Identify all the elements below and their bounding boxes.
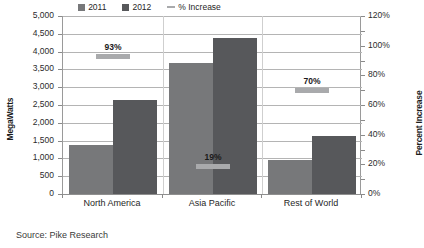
- y-axis-left-tickmark: [58, 141, 62, 142]
- y-axis-left-tickmark: [58, 176, 62, 177]
- y-axis-right-tick-label: 0%: [368, 188, 408, 198]
- y-axis-left-tick-label: 1,000: [14, 152, 54, 162]
- y-axis-left-tick-label: 2,000: [14, 117, 54, 127]
- y-axis-left-tickmark: [58, 34, 62, 35]
- y-axis-left-tickmark: [58, 105, 62, 106]
- y-axis-left-tick-label: 500: [14, 170, 54, 180]
- y-axis-left-tick-label: 2,500: [14, 99, 54, 109]
- y-axis-right-tick-label: 120%: [368, 10, 408, 20]
- y-axis-left-tickmark: [58, 123, 62, 124]
- source-note: Source: Pike Research: [16, 230, 108, 240]
- x-axis-category-label-3: Rest of World: [261, 198, 361, 208]
- legend-label: 2012: [132, 2, 151, 12]
- gridline: [63, 16, 362, 17]
- y-axis-right-tick-label: 80%: [368, 69, 408, 79]
- y-axis-right-tick-label: 40%: [368, 129, 408, 139]
- gridline: [63, 194, 362, 195]
- y-axis-right-tickmark: [361, 120, 365, 121]
- y-axis-left-tickmark: [58, 87, 62, 88]
- y-axis-right-tickmark: [361, 164, 365, 165]
- y-axis-left-tickmark: [58, 69, 62, 70]
- y-axis-right-tickmark: [361, 179, 365, 180]
- bar-2012: [312, 136, 356, 194]
- y-axis-right-tickmark: [361, 90, 365, 91]
- legend-item-2[interactable]: 2012: [122, 2, 151, 12]
- y-axis-left-tick-label: 3,000: [14, 81, 54, 91]
- legend-item-1[interactable]: 2011: [78, 2, 106, 12]
- y-axis-left-tickmark: [58, 52, 62, 53]
- y-axis-right-title: Percent Increase: [414, 75, 424, 171]
- y-axis-left-tick-label: 5,000: [14, 10, 54, 20]
- y-axis-left-tick-label: 3,500: [14, 63, 54, 73]
- dash-line-icon: [167, 6, 175, 8]
- legend-item-3[interactable]: % Increase: [167, 2, 221, 12]
- y-axis-right-tick-label: 60%: [368, 99, 408, 109]
- x-axis-tickmark: [361, 194, 362, 198]
- square-swatch-icon: [78, 4, 85, 11]
- percent-increase-label: 19%: [193, 152, 233, 162]
- y-axis-left-tickmark: [58, 158, 62, 159]
- percent-increase-marker: [196, 164, 230, 169]
- y-axis-right-tickmark: [361, 75, 365, 76]
- y-axis-right-tickmark: [361, 150, 365, 151]
- category-separator: [262, 16, 263, 194]
- y-axis-right-tickmark: [361, 135, 365, 136]
- y-axis-right-tick-label: 20%: [368, 158, 408, 168]
- y-axis-left-tick-label: 0: [14, 188, 54, 198]
- y-axis-right-tickmark: [361, 31, 365, 32]
- bar-2011: [268, 160, 312, 194]
- y-axis-left-tick-label: 1,500: [14, 135, 54, 145]
- percent-increase-marker: [295, 88, 329, 93]
- y-axis-right-tickmark: [361, 16, 365, 17]
- percent-increase-label: 93%: [93, 42, 133, 52]
- percent-increase-label: 70%: [292, 76, 332, 86]
- bar-2011: [169, 63, 213, 194]
- bar-2012: [113, 100, 157, 194]
- square-swatch-icon: [122, 4, 129, 11]
- plot-area: 93%19%70%: [62, 16, 361, 194]
- bar-2012: [213, 38, 257, 194]
- bar-2011: [69, 145, 113, 194]
- y-axis-right-tickmark: [361, 46, 365, 47]
- legend-label: % Increase: [178, 2, 221, 12]
- category-separator: [163, 16, 164, 194]
- y-axis-right-tickmark: [361, 61, 365, 62]
- legend-label: 2011: [88, 2, 106, 12]
- x-axis-category-label-2: Asia Pacific: [162, 198, 262, 208]
- y-axis-left-tickmark: [58, 16, 62, 17]
- percent-increase-marker: [96, 54, 130, 59]
- y-axis-left-tick-label: 4,000: [14, 46, 54, 56]
- y-axis-left-tick-label: 4,500: [14, 28, 54, 38]
- y-axis-right-tickmark: [361, 105, 365, 106]
- y-axis-right-tick-label: 100%: [368, 40, 408, 50]
- gridline: [63, 34, 362, 35]
- x-axis-category-label-1: North America: [62, 198, 162, 208]
